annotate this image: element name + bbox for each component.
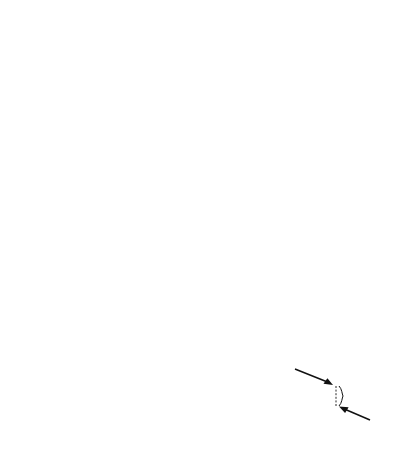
chart-top: [0, 0, 408, 295]
figure-page: [0, 0, 408, 450]
chart-bottom-svg: [0, 295, 408, 450]
forecast-arrow-line: [295, 369, 330, 383]
chart-top-svg: [0, 0, 408, 295]
gap-bracket: [339, 386, 343, 406]
chart-bottom: [0, 295, 408, 450]
